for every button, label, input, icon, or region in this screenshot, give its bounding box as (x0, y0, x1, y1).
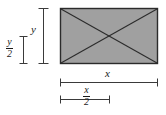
geometry-figure: y y 2 x x 2 (0, 0, 166, 115)
label-height-full: y (31, 24, 36, 35)
label-height-half: y 2 (6, 37, 13, 59)
width-full-dimension-bar (61, 79, 158, 87)
height-half-dimension-bar (20, 37, 28, 64)
label-width-full: x (105, 68, 110, 79)
label-height-half-numerator: y (6, 37, 12, 47)
label-width-half: x 2 (83, 85, 90, 107)
height-full-dimension-bar (39, 9, 49, 64)
label-width-half-numerator: x (83, 85, 89, 95)
label-width-half-denominator: 2 (83, 97, 90, 107)
label-height-half-denominator: 2 (6, 49, 13, 59)
